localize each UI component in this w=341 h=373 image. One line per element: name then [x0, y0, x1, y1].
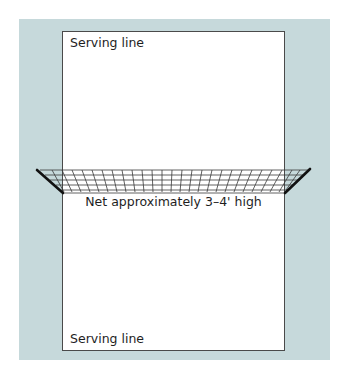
left-pole-icon: [37, 170, 63, 193]
net-icon: [0, 0, 341, 373]
net-mesh: [40, 170, 310, 193]
net-height-label: Net approximately 3–4' high: [0, 194, 341, 209]
net-verticals: [52, 170, 300, 192]
right-pole-icon: [285, 169, 310, 193]
bottom-serving-line-label: Serving line: [70, 331, 144, 346]
top-serving-line-label: Serving line: [70, 35, 144, 50]
net-poles: [37, 169, 310, 193]
